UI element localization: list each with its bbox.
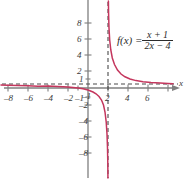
- function-plot: [0, 0, 188, 181]
- y-tick-label: 1: [79, 75, 84, 84]
- x-tick-label: –8: [4, 94, 13, 103]
- x-tick-label: –6: [24, 94, 33, 103]
- x-tick-label: 6: [145, 94, 150, 103]
- function-formula: f(x) =x + 12x − 4: [117, 30, 173, 51]
- formula-denominator: 2x − 4: [142, 40, 172, 51]
- x-axis-label: x: [179, 79, 183, 88]
- y-tick-label: 6: [77, 35, 82, 44]
- y-tick-label: –6: [79, 133, 88, 142]
- y-tick-label: 4: [77, 51, 82, 60]
- x-tick-label: 2: [105, 94, 110, 103]
- graph-figure: –8 –6 –4 –2 –1 2 4 6 8 6 4 2 1 –1 –2 –4 …: [0, 0, 188, 181]
- formula-fraction: x + 12x − 4: [142, 30, 172, 51]
- x-tick-label: –4: [44, 94, 53, 103]
- formula-numerator: x + 1: [142, 30, 172, 40]
- y-tick-label: –2: [79, 101, 88, 110]
- x-tick-label: 4: [125, 94, 130, 103]
- y-tick-label: –4: [79, 117, 88, 126]
- formula-lead: f(x) =: [117, 35, 142, 46]
- y-tick-label: 8: [77, 19, 82, 28]
- curve-left-branch: [1, 85, 108, 178]
- y-tick-label: –8: [79, 149, 88, 158]
- x-tick-label: –2: [64, 94, 73, 103]
